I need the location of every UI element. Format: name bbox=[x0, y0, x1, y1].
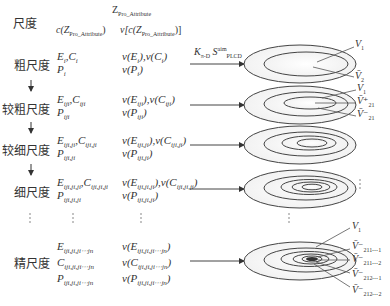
scale-label-semi-coarse: 较粗尺度 bbox=[2, 100, 50, 117]
scale-column-header: 尺度 bbox=[13, 14, 37, 31]
scale-label-coarse: 粗尺度 bbox=[14, 56, 50, 73]
scale-label-semi-fine: 较细尺度 bbox=[2, 141, 50, 158]
ellipse-label-V1-row1: V1 bbox=[355, 38, 364, 51]
vertical-ellipsis-left bbox=[29, 213, 142, 223]
c-attribute-header: c(ZPro_Attribute) bbox=[56, 24, 106, 37]
z-attribute-header: ZPro_Attribute bbox=[112, 4, 151, 17]
row5-line3: Piji,ji,ji⋯jn bbox=[57, 272, 93, 287]
ellipse-label-V212-2: V̄⁻212⋯2 bbox=[352, 284, 381, 297]
arrow-label: Kπ-D SaimPLCD bbox=[194, 46, 242, 59]
row5-value1: v(Eiji,ji,ji⋯jn) bbox=[122, 240, 171, 255]
ellipse-nest-row2 bbox=[244, 86, 356, 124]
ellipse-label-V211-2: V̄⁻211⋯2 bbox=[352, 253, 381, 266]
row1-line2: Pi bbox=[57, 63, 66, 78]
ellipse-label-V1-row2: V1 bbox=[357, 82, 366, 95]
scale-label-fine: 细尺度 bbox=[14, 183, 50, 200]
ellipse-label-V212-1: V̄⁻212⋯1 bbox=[352, 268, 381, 281]
row5-line2: Ciji,ji,ji⋯jn bbox=[57, 256, 94, 271]
row4-value2: v(Piji,ji,ji) bbox=[122, 189, 158, 204]
v-attribute-header: v[c(ZPro_Attribute)] bbox=[120, 24, 181, 37]
row2-value2: v(Piji) bbox=[122, 106, 147, 121]
ellipse-nest-row5 bbox=[244, 242, 356, 280]
row3-value2: v(Piji,ji) bbox=[122, 147, 152, 162]
row5-value3: v(Piji,ji,ji⋯jn) bbox=[122, 272, 171, 287]
row1-value2: v(Pi) bbox=[122, 63, 143, 78]
row3-line2: Piji,ji bbox=[57, 147, 75, 162]
ellipse-nest-row4 bbox=[244, 170, 356, 208]
ellipse-nest-row1 bbox=[244, 45, 356, 83]
ellipse-label-V21minus-row2: V̄⁻21 bbox=[357, 108, 374, 121]
ellipse-label-V21plus-row2: V̄⁺21 bbox=[357, 95, 374, 108]
ellipse-nest-row3 bbox=[244, 126, 356, 164]
row4-line2: Piji,ji,ji bbox=[57, 189, 81, 204]
right-arrow-icon bbox=[190, 64, 244, 261]
dense-core bbox=[306, 257, 318, 261]
ellipse-label-V211-1: V̄⁻211⋯1 bbox=[352, 240, 381, 253]
row2-line2: Piji bbox=[57, 106, 70, 121]
ellipse-label-V1-row5: V1 bbox=[352, 220, 361, 233]
row5-line1: Eiji,ji,ji⋯jn bbox=[57, 240, 93, 255]
scale-label-finest: 精尺度 bbox=[14, 254, 50, 271]
row5-value2: v(Ciji,ji,ji⋯jn) bbox=[122, 256, 171, 271]
